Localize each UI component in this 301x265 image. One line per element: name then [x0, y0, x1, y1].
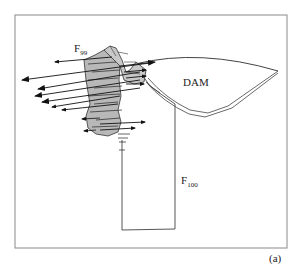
- dam-label: DAM: [183, 76, 209, 88]
- panel-label: (a): [269, 252, 281, 264]
- figure-frame: [15, 15, 287, 248]
- f99-label: F99: [74, 42, 87, 57]
- diagram-canvas: [0, 0, 301, 265]
- f100-label: F100: [181, 174, 198, 189]
- figure: DAM F99 F100 (a): [0, 0, 301, 265]
